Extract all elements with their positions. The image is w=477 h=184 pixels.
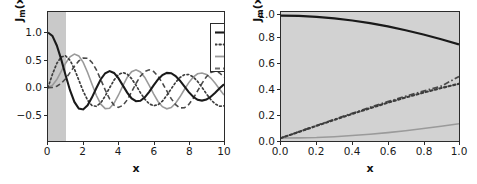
curve-m2 bbox=[281, 124, 459, 138]
right-ytickmark bbox=[277, 63, 280, 64]
left-xtick-label: 8 bbox=[186, 146, 193, 157]
left-xtick-label: 6 bbox=[150, 146, 157, 157]
right-ytick-label: 0.0 bbox=[249, 136, 275, 147]
left-xtick-label: 4 bbox=[115, 146, 122, 157]
legend-box: m =0 m =1 m =2 bbox=[210, 23, 225, 72]
right-ytickmark bbox=[277, 89, 280, 90]
curve-m0 bbox=[281, 16, 459, 45]
curve-m1 bbox=[281, 84, 459, 138]
right-ytick-label: 0.2 bbox=[249, 110, 275, 121]
left-panel: m =0 m =1 m =2 bbox=[0, 0, 238, 184]
right-xtick-label: 0.2 bbox=[308, 146, 325, 157]
right-xaxis-title: x bbox=[366, 162, 373, 175]
right-ytick-label: 0.4 bbox=[249, 84, 275, 95]
left-yaxis-title-main: J bbox=[13, 18, 26, 22]
right-ytickmark bbox=[277, 115, 280, 116]
legend-item-m2: m =2 bbox=[215, 51, 225, 62]
right-ytickmark bbox=[277, 141, 280, 142]
right-yaxis-title-tail: (x) bbox=[251, 0, 264, 9]
left-yaxis-title: Jm(x) bbox=[0, 0, 40, 14]
left-ytick-label: −0.5 bbox=[10, 110, 42, 121]
left-ytickmark bbox=[44, 87, 47, 88]
legend-item-m0: m =0 bbox=[215, 27, 225, 38]
right-ytickmark bbox=[277, 37, 280, 38]
left-ytickmark bbox=[44, 32, 47, 33]
legend-line-m1-icon bbox=[215, 40, 225, 49]
left-yaxis-title-sub: m bbox=[18, 9, 27, 17]
left-curves bbox=[48, 12, 224, 141]
right-ytick-label: 0.8 bbox=[249, 32, 275, 43]
left-ytick-label: 0.5 bbox=[16, 54, 42, 65]
left-ytickmark bbox=[44, 115, 47, 116]
right-ytickmark bbox=[277, 14, 280, 15]
right-xtick-label: 0.0 bbox=[272, 146, 289, 157]
legend-item-m3: m =3 bbox=[215, 63, 225, 74]
legend-line-m2-icon bbox=[215, 52, 225, 61]
right-plot-area bbox=[280, 11, 460, 142]
left-xtick-label: 0 bbox=[44, 146, 51, 157]
right-xtick-label: 0.8 bbox=[416, 146, 433, 157]
left-ytick-label: 0.0 bbox=[16, 82, 42, 93]
right-yaxis-title-main: J bbox=[251, 18, 264, 22]
left-yaxis-title-tail: (x) bbox=[13, 0, 26, 9]
legend-item-m1: m =1 bbox=[215, 39, 225, 50]
left-ytick-label: 1.0 bbox=[16, 26, 42, 37]
left-xtick-label: 2 bbox=[79, 146, 86, 157]
right-panel: 0.0 0.2 0.4 0.6 0.8 1.0 0.0 0.2 0.4 0.6 … bbox=[238, 0, 477, 184]
right-xtick-label: 1.0 bbox=[451, 146, 468, 157]
legend-line-m3-icon bbox=[215, 64, 225, 73]
right-ytick-label: 0.6 bbox=[249, 58, 275, 69]
left-xaxis-title: x bbox=[132, 162, 139, 175]
right-xtick-label: 0.4 bbox=[344, 146, 361, 157]
figure-canvas: m =0 m =1 m =2 bbox=[0, 0, 477, 184]
right-curves bbox=[281, 12, 459, 141]
left-plot-area: m =0 m =1 m =2 bbox=[47, 11, 225, 142]
left-xtick-label: 10 bbox=[217, 146, 230, 157]
left-ytickmark bbox=[44, 60, 47, 61]
right-yaxis-title-sub: m bbox=[256, 9, 265, 17]
right-xtick-label: 0.6 bbox=[380, 146, 397, 157]
legend-line-m0-icon bbox=[215, 28, 225, 37]
